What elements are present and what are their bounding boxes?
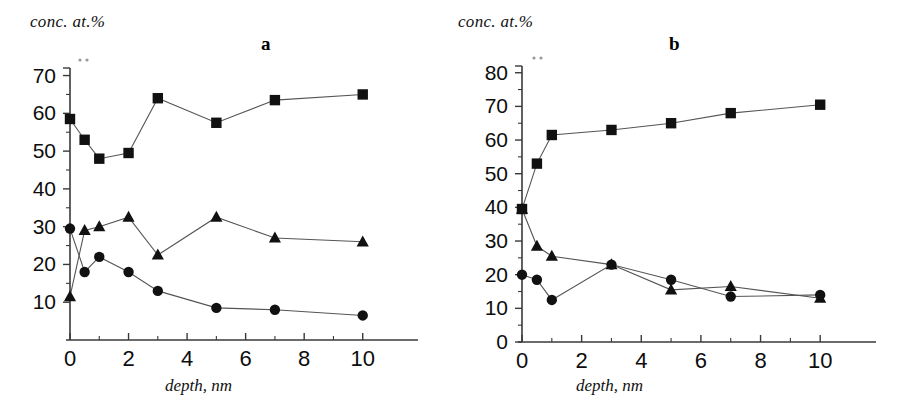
data-point-square [606,125,616,135]
y-tick-label: 40 [485,195,508,218]
series-line-triangles [70,217,363,296]
data-point-square [94,153,104,163]
data-point-circle [726,291,736,301]
data-point-square [358,89,368,99]
chart-panel-a: conc. at.% a 102030405060700246810 depth… [0,0,450,414]
y-tick-label: 30 [485,229,508,252]
x-tick-label: 2 [576,348,588,373]
y-tick-label: 0 [496,330,508,353]
data-point-circle [666,275,676,285]
data-point-circle [79,267,89,277]
decorative-dot [78,58,81,61]
x-axis-title-a: depth, nm [165,376,232,396]
x-tick-label: 4 [635,348,647,373]
decorative-dot [539,56,542,59]
y-tick-label: 60 [485,128,508,151]
y-tick-label: 70 [33,64,56,87]
x-axis-title-b: depth, nm [576,376,643,396]
data-point-square [815,100,825,110]
data-point-triangle [210,211,222,222]
data-point-circle [94,252,104,262]
data-point-triangle [269,232,281,243]
data-point-circle [270,305,280,315]
y-tick-label: 20 [33,252,56,275]
data-point-triangle [357,235,369,246]
y-tick-label: 80 [485,61,508,84]
data-point-square [153,93,163,103]
x-tick-label: 2 [122,346,134,371]
data-point-circle [153,286,163,296]
x-tick-label: 8 [754,348,766,373]
data-point-square [666,118,676,128]
decorative-dot [85,58,88,61]
data-point-triangle [665,283,677,294]
y-tick-label: 20 [485,263,508,286]
data-point-circle [358,310,368,320]
data-point-circle [65,223,75,233]
series-line-circles [70,229,363,316]
x-tick-label: 6 [695,348,707,373]
plot-area-b: 010203040506070800246810 [450,0,901,414]
y-tick-label: 30 [33,215,56,238]
y-tick-label: 50 [485,162,508,185]
data-point-square [65,114,75,124]
data-point-square [547,130,557,140]
y-tick-label: 60 [33,101,56,124]
x-tick-label: 0 [516,348,528,373]
data-point-circle [606,259,616,269]
x-tick-label: 4 [181,346,193,371]
x-tick-label: 8 [298,346,310,371]
x-tick-label: 10 [808,348,832,373]
data-point-circle [547,295,557,305]
data-point-triangle [725,280,737,291]
data-point-triangle [546,250,558,261]
figure-root: conc. at.% a 102030405060700246810 depth… [0,0,901,414]
decorative-dot [532,56,535,59]
data-point-triangle [531,240,543,251]
y-tick-label: 10 [33,290,56,313]
data-point-circle [211,303,221,313]
x-tick-label: 10 [350,346,374,371]
data-point-square [532,158,542,168]
y-tick-label: 10 [485,296,508,319]
y-tick-label: 40 [33,177,56,200]
data-point-square [270,95,280,105]
data-point-circle [123,267,133,277]
plot-area-a: 102030405060700246810 [0,0,450,414]
data-point-square [726,108,736,118]
chart-panel-b: conc. at.% b 010203040506070800246810 de… [450,0,901,414]
data-point-triangle [64,290,76,301]
y-tick-label: 50 [33,139,56,162]
x-tick-label: 0 [64,346,76,371]
data-point-square [211,118,221,128]
y-tick-label: 70 [485,94,508,117]
data-point-circle [815,290,825,300]
data-point-square [123,148,133,158]
data-point-triangle [122,211,134,222]
data-point-circle [517,269,527,279]
x-tick-label: 6 [240,346,252,371]
data-point-circle [532,275,542,285]
data-point-square [79,135,89,145]
